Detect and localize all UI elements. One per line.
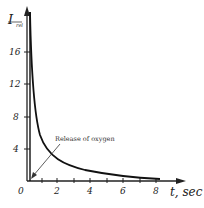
x-axis-arrow-icon xyxy=(176,178,186,184)
annotation-text: Release of oxygen xyxy=(55,135,115,143)
y-axis-subscript: rel xyxy=(16,22,23,28)
y-tick-4: 4 xyxy=(12,144,19,154)
annotation-arrowhead-icon xyxy=(31,172,37,179)
x-tick-6: 6 xyxy=(120,186,126,196)
y-tick-12: 12 xyxy=(9,79,21,89)
decay-curve xyxy=(30,12,160,179)
x-tick-4: 4 xyxy=(86,186,93,196)
x-tick-0: 0 xyxy=(18,186,24,196)
x-tick-2: 2 xyxy=(53,186,60,196)
y-axis-arrow-icon xyxy=(24,6,30,16)
x-tick-8: 8 xyxy=(153,186,159,196)
y-axis-label: I xyxy=(7,12,14,27)
chart: 16 12 8 4 0 2 4 6 8 I rel t, sec Release… xyxy=(0,0,204,208)
x-axis-label: t, sec xyxy=(170,185,203,199)
y-tick-8: 8 xyxy=(13,112,19,122)
y-tick-16: 16 xyxy=(9,47,21,57)
